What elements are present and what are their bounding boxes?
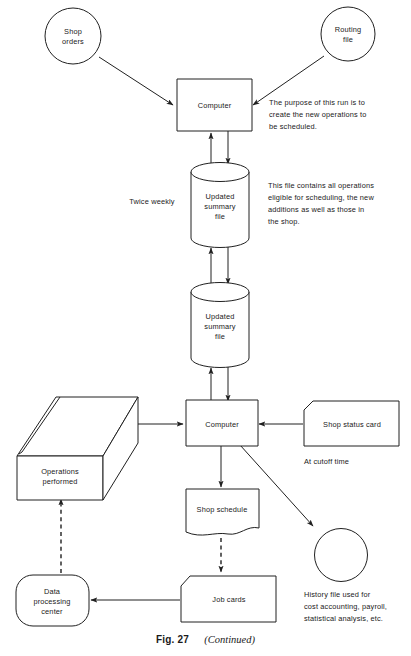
annotation-top-run-purpose: The purpose of this run is to create the… (269, 98, 366, 131)
annotation-history-file-note: History file used for cost accounting, p… (304, 590, 387, 623)
node-computer-bottom[interactable]: Computer (186, 400, 258, 446)
node-routing-file-label-line2: file (343, 35, 353, 44)
node-shop-schedule[interactable]: Shop schedule (186, 489, 259, 535)
node-routing-file-label-line1: Routing (335, 25, 362, 34)
node-shop-status-card-label: Shop status card (323, 420, 381, 429)
annotation-summary-file-note-line3: additions as well as those in (268, 205, 364, 214)
annotation-summary-file-note-line1: This file contains all operations (268, 181, 374, 190)
node-shop-orders[interactable]: Shop orders (45, 8, 101, 64)
node-job-cards[interactable]: Job cards (181, 576, 276, 622)
node-history-file[interactable] (315, 529, 368, 582)
node-data-processing-center-label-line3: center (41, 607, 63, 616)
annotation-summary-file-note: This file contains all operations eligib… (268, 181, 374, 226)
flowchart-canvas: Job cards (dashed) --> Operations perfor… (0, 0, 411, 656)
node-updated-summary-file-upper-label-line2: summary (204, 202, 236, 211)
node-updated-summary-file-upper-label-line1: Updated (206, 192, 235, 201)
node-data-processing-center[interactable]: Data processing center (16, 575, 89, 626)
node-computer-top[interactable]: Computer (177, 79, 252, 131)
annotation-top-run-purpose-line2: create the new operations to (269, 110, 366, 119)
figure-caption: Fig. 27 (Continued) (0, 634, 411, 645)
figure-flowchart: Job cards (dashed) --> Operations perfor… (0, 0, 411, 656)
annotation-history-file-note-line3: statistical analysis, etc. (304, 614, 383, 623)
node-updated-summary-file-lower-label-line3: file (215, 332, 225, 341)
annotation-twice-weekly: Twice weekly (129, 197, 174, 206)
annotation-history-file-note-line2: cost accounting, payroll, (304, 602, 387, 611)
node-operations-performed-label-line1: Operations (41, 467, 79, 476)
node-computer-top-label: Computer (198, 101, 232, 110)
node-updated-summary-file-lower-label-line2: summary (204, 322, 236, 331)
node-updated-summary-file-upper[interactable]: Updated summary file (191, 163, 249, 248)
annotation-summary-file-note-line2: eligible for scheduling, the new (268, 193, 374, 202)
node-operations-performed[interactable]: Operations performed (17, 397, 138, 500)
node-shop-status-card[interactable]: Shop status card (304, 401, 399, 446)
node-data-processing-center-label-line1: Data (44, 587, 61, 596)
figure-caption-continued: (Continued) (204, 634, 255, 645)
annotation-top-run-purpose-line3: be scheduled. (269, 122, 317, 131)
node-routing-file[interactable]: Routing file (321, 7, 375, 61)
node-updated-summary-file-lower-label-line1: Updated (206, 312, 235, 321)
node-updated-summary-file-upper-label-line3: file (215, 212, 225, 221)
node-data-processing-center-label-line2: processing (33, 597, 70, 606)
node-job-cards-label: Job cards (212, 595, 246, 604)
node-shop-orders-label-line2: orders (62, 37, 84, 46)
node-operations-performed-label-line2: performed (42, 477, 77, 486)
node-updated-summary-file-lower[interactable]: Updated summary file (191, 283, 249, 368)
node-computer-bottom-label: Computer (205, 420, 239, 429)
annotation-history-file-note-line1: History file used for (304, 590, 371, 599)
connector-shop-orders-to-computer (99, 57, 173, 105)
node-shop-schedule-label: Shop schedule (197, 505, 248, 514)
figure-caption-number: Fig. 27 (156, 634, 189, 645)
node-shop-orders-label-line1: Shop (64, 27, 82, 36)
annotation-at-cutoff-time: At cutoff time (304, 457, 349, 466)
annotation-top-run-purpose-line1: The purpose of this run is to (269, 98, 365, 107)
annotation-summary-file-note-line4: the shop. (268, 217, 300, 226)
